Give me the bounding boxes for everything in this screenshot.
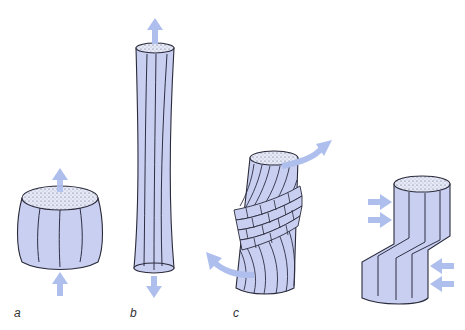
arrow-left-icon bbox=[430, 276, 454, 292]
specimen-d bbox=[362, 176, 454, 304]
arrow-right-icon bbox=[368, 212, 392, 228]
deformation-diagram bbox=[0, 0, 465, 330]
panel-label-b: b bbox=[130, 306, 137, 320]
specimen-a bbox=[18, 168, 103, 296]
arrow-up-icon bbox=[52, 272, 68, 296]
arrow-down-icon bbox=[146, 276, 162, 298]
arrow-right-icon bbox=[368, 194, 392, 210]
panel-label-c: c bbox=[233, 306, 239, 320]
arrow-left-icon bbox=[430, 258, 454, 274]
specimen-b bbox=[134, 18, 174, 298]
arrow-up-icon bbox=[147, 18, 163, 44]
specimen-c bbox=[206, 140, 332, 294]
panel-label-a: a bbox=[14, 306, 21, 320]
